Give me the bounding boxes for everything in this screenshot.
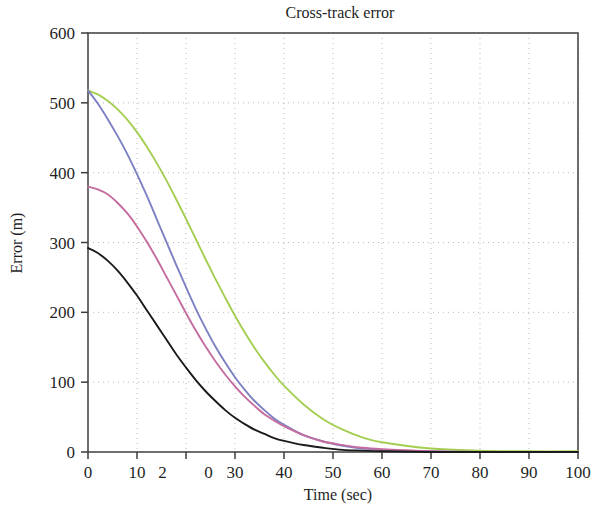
x-tick-label: 40	[276, 463, 293, 482]
series-line-series-green	[88, 90, 578, 451]
x-tick-label: 90	[521, 463, 538, 482]
x-tick-label: 10	[129, 463, 146, 482]
y-axis-tick-labels: 0100200300400500600	[50, 24, 76, 462]
x-tick-label: 30	[227, 463, 244, 482]
x-tick-label: 0	[84, 463, 93, 482]
y-tick-label: 100	[50, 373, 76, 392]
chart-canvas: 0102030405060708090100 01002003004005006…	[0, 0, 608, 514]
y-tick-label: 200	[50, 303, 76, 322]
x-tick-label: 2	[158, 463, 167, 482]
data-series-group	[88, 90, 578, 452]
y-tick-label: 600	[50, 24, 76, 43]
x-axis-title: Time (sec)	[304, 486, 372, 504]
chart-figure: 0102030405060708090100 01002003004005006…	[0, 0, 608, 514]
y-tick-label: 400	[50, 164, 76, 183]
x-tick-label: 50	[325, 463, 342, 482]
y-tick-label: 500	[50, 94, 76, 113]
x-tick-label: 70	[423, 463, 440, 482]
x-axis-ticks	[88, 452, 578, 459]
y-tick-label: 300	[50, 234, 76, 253]
series-line-series-blue	[88, 90, 578, 452]
x-tick-label: 60	[374, 463, 391, 482]
y-tick-label: 0	[67, 443, 76, 462]
chart-title: Cross-track error	[286, 4, 396, 21]
y-axis-ticks	[81, 33, 88, 452]
series-line-series-magenta	[88, 187, 578, 452]
y-axis-title: Error (m)	[8, 213, 26, 274]
x-axis-tick-labels: 0102030405060708090100	[84, 463, 591, 482]
plot-gridlines	[88, 33, 578, 452]
x-tick-label: 80	[472, 463, 489, 482]
x-tick-label: 0	[204, 463, 213, 482]
x-tick-label: 100	[565, 463, 591, 482]
